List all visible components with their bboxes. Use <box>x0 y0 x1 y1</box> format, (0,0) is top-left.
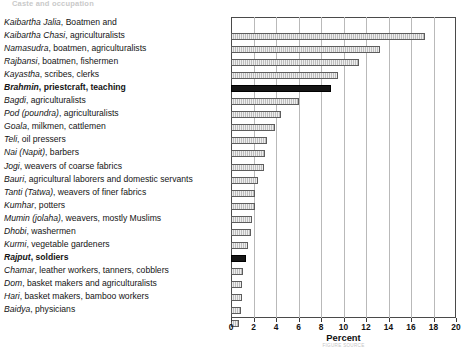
category-name: Pod (poundra) <box>4 108 59 118</box>
bar <box>231 255 246 262</box>
category-name: Brahmin <box>4 82 39 92</box>
category-name: Bagdi <box>4 95 26 105</box>
category-name: Hari <box>4 291 20 301</box>
category-name: Bauri <box>4 174 24 184</box>
category-label: Bagdi, agriculturalists <box>4 94 228 107</box>
x-axis: Percent FIGURE SOURCE 02468101214161820 <box>231 318 456 349</box>
bar <box>231 190 255 197</box>
x-axis-tick-label: 18 <box>429 322 438 332</box>
bar-row <box>231 30 456 43</box>
bar <box>231 203 255 210</box>
bar-row <box>231 252 456 265</box>
category-name: Chamar <box>4 265 35 275</box>
category-label: Nai (Napit), barbers <box>4 146 228 159</box>
bar <box>231 164 264 171</box>
category-label: Hari, basket makers, bamboo workers <box>4 290 228 303</box>
x-axis-tick-label: 14 <box>384 322 393 332</box>
bar-row <box>231 43 456 56</box>
category-label: Teli, oil pressers <box>4 133 228 146</box>
category-name: Rajbansi <box>4 56 37 66</box>
category-label: Dhobi, washermen <box>4 225 228 238</box>
category-label: Kaibartha Jalia, Boatmen and <box>4 16 228 29</box>
bar <box>231 307 241 314</box>
category-name: Teli <box>4 134 17 144</box>
bar-row <box>231 69 456 82</box>
bar <box>231 177 258 184</box>
category-name: Jogi <box>4 161 20 171</box>
bar <box>231 124 275 131</box>
category-label: Tanti (Tatwa), weavers of finer fabrics <box>4 186 228 199</box>
chart-page: Caste and occupation Kaibartha Jalia, Bo… <box>0 0 465 349</box>
bar <box>231 72 338 79</box>
bar-row-spacer <box>231 17 456 30</box>
bar-row <box>231 278 456 291</box>
bar <box>231 46 380 53</box>
bar <box>231 150 265 157</box>
category-name: Kumhar <box>4 200 34 210</box>
category-name: Dom <box>4 278 22 288</box>
bar-row <box>231 161 456 174</box>
bar-row <box>231 95 456 108</box>
x-axis-tick-label: 12 <box>361 322 370 332</box>
bar <box>231 281 242 288</box>
bar <box>231 216 252 223</box>
category-label: Kayastha, scribes, clerks <box>4 68 228 81</box>
bar-row <box>231 226 456 239</box>
bar <box>231 85 331 92</box>
x-axis-tick-label: 8 <box>319 322 324 332</box>
x-axis-tick-label: 16 <box>406 322 415 332</box>
category-label: Rajbansi, boatmen, fishermen <box>4 55 228 68</box>
category-name: Goala <box>4 121 27 131</box>
bar <box>231 137 267 144</box>
bar <box>231 33 425 40</box>
bar-row <box>231 304 456 317</box>
bar-row <box>231 134 456 147</box>
category-label: Kurmi, vegetable gardeners <box>4 238 228 251</box>
category-label: Bauri, agricultural laborers and domesti… <box>4 173 228 186</box>
category-name: Tanti (Tatwa) <box>4 187 53 197</box>
x-axis-tick-label: 2 <box>251 322 256 332</box>
category-label: Pod (poundra), agriculturalists <box>4 107 228 120</box>
bar <box>231 98 299 105</box>
category-name: Baidya <box>4 304 30 314</box>
bar <box>231 268 243 275</box>
x-axis-tick-label: 10 <box>339 322 348 332</box>
category-label: Kumhar, potters <box>4 199 228 212</box>
category-name: Namasudra <box>4 43 48 53</box>
bar-series <box>231 17 456 318</box>
category-label: Dom, basket makers and agriculturalists <box>4 277 228 290</box>
bar-row <box>231 239 456 252</box>
bar <box>231 229 251 236</box>
category-name: Mumin (jolaha) <box>4 213 61 223</box>
category-name: Rajput <box>4 252 31 262</box>
x-axis-title: Percent <box>231 332 456 343</box>
category-label: Chamar, leather workers, tanners, cobble… <box>4 264 228 277</box>
category-name: Kaibartha Jalia <box>4 17 61 27</box>
page-header-faint: Caste and occupation <box>12 0 94 8</box>
x-axis-tick-label: 4 <box>274 322 279 332</box>
bar-row <box>231 174 456 187</box>
bar-row <box>231 108 456 121</box>
category-label: Brahmin, priestcraft, teaching <box>4 81 228 94</box>
category-label: Kaibartha Chasi, agriculturalists <box>4 29 228 42</box>
category-label-column: Kaibartha Jalia, Boatmen andKaibartha Ch… <box>4 16 228 316</box>
x-axis-tick-label: 0 <box>229 322 234 332</box>
category-name: Kayastha <box>4 69 40 79</box>
x-axis-subnote: FIGURE SOURCE <box>231 343 456 348</box>
bar <box>231 242 248 249</box>
category-name: Kurmi <box>4 239 26 249</box>
category-name: Nai (Napit) <box>4 147 45 157</box>
category-name: Dhobi <box>4 226 26 236</box>
bar-row <box>231 56 456 69</box>
bar-row <box>231 82 456 95</box>
x-axis-tick-label: 20 <box>451 322 460 332</box>
category-label: Rajput, soldiers <box>4 251 228 264</box>
plot-area <box>231 17 456 318</box>
category-label: Jogi, weavers of coarse fabrics <box>4 160 228 173</box>
category-name: Kaibartha Chasi <box>4 30 65 40</box>
category-label: Goala, milkmen, cattlemen <box>4 120 228 133</box>
bar <box>231 59 359 66</box>
category-label: Mumin (jolaha), weavers, mostly Muslims <box>4 212 228 225</box>
bar-row <box>231 265 456 278</box>
bar-row <box>231 147 456 160</box>
